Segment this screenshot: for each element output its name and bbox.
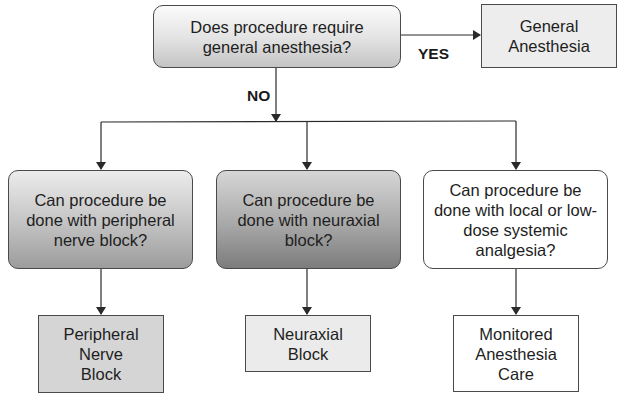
node-text: analgesia? xyxy=(434,240,597,260)
node-text: nerve block? xyxy=(26,230,175,250)
node-text: Block xyxy=(63,364,138,384)
result-monitored-anesthesia-care: Monitored Anesthesia Care xyxy=(453,315,579,392)
node-text: general anesthesia? xyxy=(190,37,363,57)
node-text: Can procedure be xyxy=(26,190,175,210)
node-text: done with local or low- xyxy=(434,200,597,220)
node-text: Nerve xyxy=(63,344,138,364)
node-text: General xyxy=(508,16,590,36)
node-text: Anesthesia xyxy=(508,36,590,56)
node-text: Can procedure be xyxy=(434,180,597,200)
node-text: Monitored xyxy=(475,324,557,344)
node-text: Peripheral xyxy=(63,324,138,344)
result-neuraxial-block: Neuraxial Block xyxy=(245,315,371,372)
node-text: Care xyxy=(475,364,557,384)
node-text: done with neuraxial xyxy=(237,210,379,230)
node-text: Can procedure be xyxy=(237,190,379,210)
result-peripheral-nerve-block: Peripheral Nerve Block xyxy=(38,315,164,393)
question-neuraxial-block: Can procedure be done with neuraxial blo… xyxy=(216,170,401,269)
node-text: Anesthesia xyxy=(475,344,557,364)
node-text: done with peripheral xyxy=(26,210,175,230)
label-yes: YES xyxy=(418,45,449,63)
label-no: NO xyxy=(247,87,270,105)
node-text: Does procedure require xyxy=(190,17,363,37)
result-general-anesthesia: General Anesthesia xyxy=(481,4,617,68)
node-text: block? xyxy=(237,230,379,250)
node-text: Block xyxy=(273,344,343,364)
branch-line xyxy=(101,121,516,122)
question-peripheral-nerve-block: Can procedure be done with peripheral ne… xyxy=(8,170,193,269)
node-text: dose systemic xyxy=(434,220,597,240)
node-text: Neuraxial xyxy=(273,324,343,344)
question-local-analgesia: Can procedure be done with local or low-… xyxy=(423,170,608,269)
question-general-anesthesia: Does procedure require general anesthesi… xyxy=(153,5,401,68)
